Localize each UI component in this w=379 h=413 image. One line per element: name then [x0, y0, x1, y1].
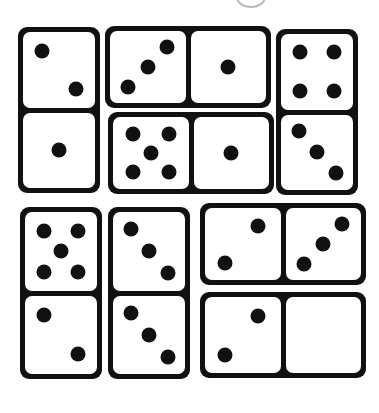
- domino-pip: [161, 164, 176, 179]
- domino-pip: [160, 349, 175, 364]
- domino-pip: [143, 146, 158, 161]
- domino-pip: [125, 164, 140, 179]
- domino-tile[interactable]: [105, 26, 271, 108]
- domino-face: [205, 208, 281, 280]
- domino-tile[interactable]: [18, 27, 100, 193]
- domino-puzzle-canvas: [0, 0, 379, 413]
- domino-pip: [159, 39, 174, 54]
- domino-pip: [250, 219, 265, 234]
- domino-pip: [217, 347, 232, 362]
- domino-pip: [52, 143, 67, 158]
- domino-face: [113, 296, 185, 375]
- domino-pip: [221, 60, 236, 75]
- domino-pip: [35, 43, 50, 58]
- domino-tile[interactable]: [20, 207, 102, 379]
- domino-pip: [142, 244, 157, 259]
- domino-pip: [71, 223, 86, 238]
- domino-face: [286, 297, 362, 373]
- domino-pip: [161, 127, 176, 142]
- domino-face: [23, 113, 95, 189]
- domino-pip: [327, 84, 342, 99]
- domino-tile[interactable]: [108, 112, 274, 194]
- domino-face: [110, 31, 186, 103]
- domino-pip: [125, 127, 140, 142]
- domino-pip: [292, 124, 307, 139]
- domino-pip: [335, 216, 350, 231]
- domino-pip: [327, 45, 342, 60]
- domino-pip: [160, 266, 175, 281]
- domino-pip: [36, 264, 51, 279]
- domino-pip: [296, 257, 311, 272]
- domino-pip: [37, 308, 52, 323]
- domino-pip: [36, 223, 51, 238]
- domino-pip: [316, 237, 331, 252]
- domino-face: [113, 212, 185, 291]
- domino-pip: [310, 145, 325, 160]
- domino-face: [194, 117, 270, 189]
- domino-pip: [292, 84, 307, 99]
- domino-face: [281, 34, 353, 110]
- domino-pip: [121, 80, 136, 95]
- domino-face: [23, 32, 95, 108]
- domino-pip: [250, 309, 265, 324]
- domino-pip: [224, 146, 239, 161]
- domino-pip: [217, 255, 232, 270]
- domino-pip: [328, 166, 343, 181]
- domino-face: [25, 296, 97, 375]
- domino-face: [25, 212, 97, 291]
- domino-pip: [142, 327, 157, 342]
- domino-face: [205, 297, 281, 373]
- domino-pip: [124, 222, 139, 237]
- domino-pip: [68, 81, 83, 96]
- domino-pip: [70, 347, 85, 362]
- domino-tile[interactable]: [200, 203, 366, 285]
- domino-pip: [54, 244, 69, 259]
- partial-circle-watermark: [236, 0, 266, 8]
- domino-tile[interactable]: [108, 207, 190, 379]
- domino-face: [286, 208, 362, 280]
- domino-pip: [71, 264, 86, 279]
- domino-face: [191, 31, 267, 103]
- domino-tile[interactable]: [276, 29, 358, 195]
- domino-pip: [124, 305, 139, 320]
- domino-face: [281, 115, 353, 191]
- domino-pip: [292, 45, 307, 60]
- domino-face: [113, 117, 189, 189]
- domino-pip: [140, 60, 155, 75]
- domino-tile[interactable]: [200, 292, 366, 378]
